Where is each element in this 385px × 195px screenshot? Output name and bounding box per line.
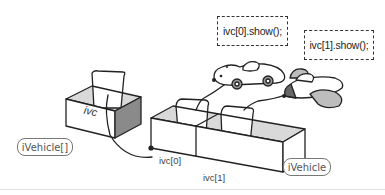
array-pointer-dot <box>148 145 153 150</box>
element-label-1: ivc[1] <box>203 172 225 183</box>
ivc-variable-box <box>66 71 152 158</box>
code-box-ivc0-show: ivc[0].show(); <box>217 16 288 46</box>
code-box-ivc1-show: ivc[1].show(); <box>304 30 374 60</box>
airplane-object <box>285 69 343 108</box>
car-object <box>214 62 285 89</box>
array-type-text: iVehicle[] <box>22 142 68 153</box>
code-text: ivc[1].show(); <box>309 39 368 51</box>
bottom-divider <box>0 189 385 190</box>
array-type-label: iVehicle[] <box>17 138 73 156</box>
element-label-0: ivc[0] <box>159 155 181 166</box>
code-text: ivc[0].show(); <box>223 25 282 37</box>
diagram-canvas: ivc[0].show(); ivc[1].show(); iVehicle[]… <box>0 0 385 195</box>
element-type-label: iVehicle <box>283 158 331 176</box>
element-type-text: iVehicle <box>288 162 327 173</box>
ivc-variable-label: ivc <box>83 104 99 119</box>
